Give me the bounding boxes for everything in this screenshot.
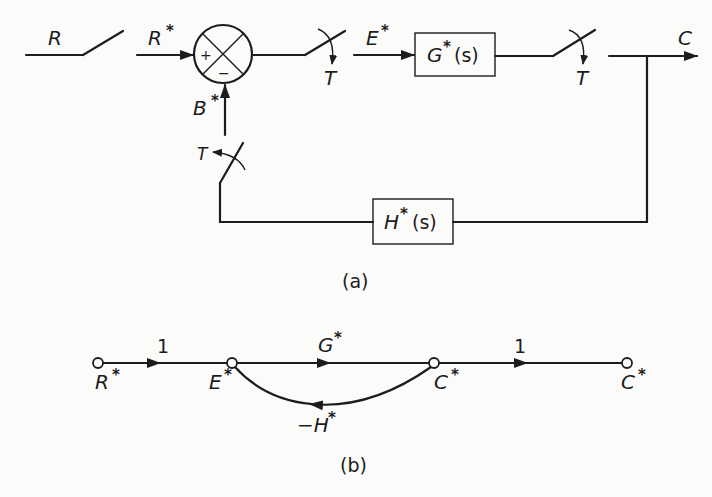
gain-r-to-e: 1 (157, 335, 169, 357)
input-sampler: R (26, 26, 123, 55)
error-label-e: E (366, 26, 379, 50)
input-label-r: R (48, 26, 62, 50)
output-label-c: C (678, 26, 692, 50)
star-symbol: * (638, 366, 646, 384)
star-symbol: * (211, 92, 219, 110)
diagram-canvas: R R * + − B * T (0, 0, 712, 497)
sampled-input-label: R (148, 26, 162, 50)
signal-flow-graph-b: 1 G * 1 −H * R * E * C * C * (b) (93, 329, 646, 476)
node-label-c: C (434, 370, 448, 394)
feedback-block-name: H (384, 210, 399, 234)
node-r-star (93, 358, 103, 368)
feedback-block-arg: (s) (412, 211, 437, 233)
caption-a: (a) (342, 270, 368, 292)
output-arrow: C (609, 26, 697, 56)
star-symbol: * (334, 329, 342, 347)
feedback-block-h: H * (s) (373, 199, 453, 244)
sampled-input-arrow: R * (137, 22, 193, 55)
sampler-label-t: T (197, 144, 209, 164)
output-sampler: T (495, 30, 595, 90)
feedback-arrow: B * (193, 85, 225, 135)
gain-e-to-c: G (318, 333, 334, 357)
star-symbol: * (451, 366, 459, 384)
star-symbol: * (443, 38, 451, 56)
star-symbol: * (381, 22, 389, 40)
node-c-star (429, 358, 439, 368)
star-symbol: * (224, 366, 232, 384)
node-label-e: E (209, 370, 222, 394)
gain-c-to-c: 1 (514, 335, 526, 357)
block-diagram-a: R R * + − B * T (26, 22, 697, 292)
plus-sign: + (200, 47, 212, 63)
sampler-label-t: T (576, 66, 590, 90)
forward-block-g: G * (s) (415, 33, 495, 76)
star-symbol: * (400, 205, 408, 223)
forward-block-name: G (427, 43, 443, 67)
star-symbol: * (112, 366, 120, 384)
forward-block-arg: (s) (454, 44, 479, 66)
node-label-r: R (95, 370, 109, 394)
node-c-star-output (622, 358, 632, 368)
star-symbol: * (166, 22, 174, 40)
summing-junction: + − (194, 25, 252, 83)
feedback-label-b: B (193, 96, 207, 120)
caption-b: (b) (340, 454, 367, 476)
gain-feedback: −H (297, 413, 329, 437)
star-symbol: * (328, 409, 336, 427)
node-label-c-output: C (621, 370, 635, 394)
sampler-label-t: T (324, 66, 338, 90)
error-arrow: E * (354, 22, 414, 55)
minus-sign: − (218, 65, 230, 81)
error-sampler: T (252, 29, 345, 90)
